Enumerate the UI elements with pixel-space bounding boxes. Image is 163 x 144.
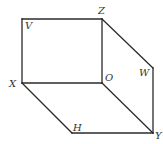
edge-X-H — [22, 83, 72, 133]
label-O: O — [105, 72, 113, 83]
label-Y: Y — [155, 130, 163, 141]
prism-diagram: V Z X O W H Y — [0, 0, 163, 144]
label-X: X — [8, 78, 17, 89]
label-H: H — [72, 122, 82, 133]
label-Z: Z — [97, 5, 106, 16]
edge-Z-W — [102, 19, 153, 68]
edge-O-Y — [102, 83, 153, 133]
label-W: W — [139, 67, 150, 78]
edges — [22, 19, 153, 133]
label-V: V — [25, 20, 34, 31]
